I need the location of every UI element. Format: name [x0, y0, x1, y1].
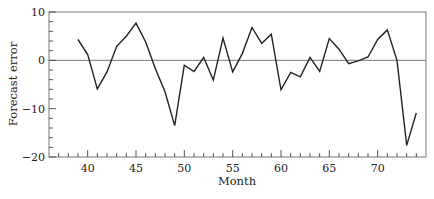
x-axis-title: Month — [218, 174, 257, 188]
plot-area — [49, 12, 426, 157]
x-tick-label: 60 — [274, 162, 288, 175]
y-tick-label: 0 — [38, 54, 45, 67]
plot-border — [49, 12, 426, 157]
data-series — [78, 23, 416, 145]
y-axis: 100−10−20 — [22, 6, 56, 164]
x-tick-label: 70 — [371, 162, 385, 175]
x-tick-label: 65 — [322, 162, 336, 175]
x-axis: 40455055606570 — [59, 150, 417, 175]
y-axis-title: Forecast error — [6, 41, 20, 126]
y-tick-label: −20 — [22, 151, 45, 164]
y-tick-label: −10 — [22, 103, 45, 116]
forecast-error-line — [78, 23, 416, 145]
x-tick-label: 50 — [177, 162, 191, 175]
y-tick-label: 10 — [31, 6, 45, 19]
x-tick-label: 40 — [81, 162, 95, 175]
forecast-error-chart: 100−10−20 40455055606570 Month Forecast … — [0, 0, 434, 199]
x-tick-label: 45 — [129, 162, 143, 175]
